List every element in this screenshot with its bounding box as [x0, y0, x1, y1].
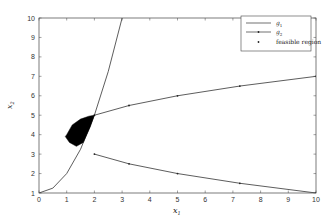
svg-text:9: 9: [286, 196, 290, 203]
feasible-region: [65, 115, 94, 146]
legend: g1 g2 feasible region: [241, 16, 321, 51]
svg-text:1: 1: [31, 190, 35, 197]
svg-text:9: 9: [31, 34, 35, 41]
x-axis-label: x1: [173, 206, 181, 216]
svg-text:3: 3: [31, 151, 35, 158]
svg-text:6: 6: [31, 92, 35, 99]
svg-text:0: 0: [37, 196, 41, 203]
svg-text:7: 7: [231, 196, 235, 203]
svg-text:8: 8: [259, 196, 263, 203]
svg-text:8: 8: [31, 53, 35, 60]
svg-text:5: 5: [176, 196, 180, 203]
chart: 01234567891012345678910 g1 g2 feasible r…: [0, 0, 336, 220]
svg-text:6: 6: [203, 196, 207, 203]
series-g2-branch-1: [94, 154, 316, 193]
svg-text:10: 10: [27, 15, 35, 22]
svg-text:7: 7: [31, 73, 35, 80]
svg-text:2: 2: [31, 170, 35, 177]
svg-text:10: 10: [312, 196, 320, 203]
svg-text:4: 4: [148, 196, 152, 203]
svg-text:5: 5: [31, 112, 35, 119]
svg-text:2: 2: [92, 196, 96, 203]
y-axis-label: x2: [5, 101, 15, 109]
series-g1: [39, 0, 127, 193]
svg-text:3: 3: [120, 196, 124, 203]
svg-text:1: 1: [65, 196, 69, 203]
legend-label-feasible: feasible region: [276, 38, 321, 46]
series-g2-branch-0: [94, 76, 316, 115]
svg-text:4: 4: [31, 131, 35, 138]
